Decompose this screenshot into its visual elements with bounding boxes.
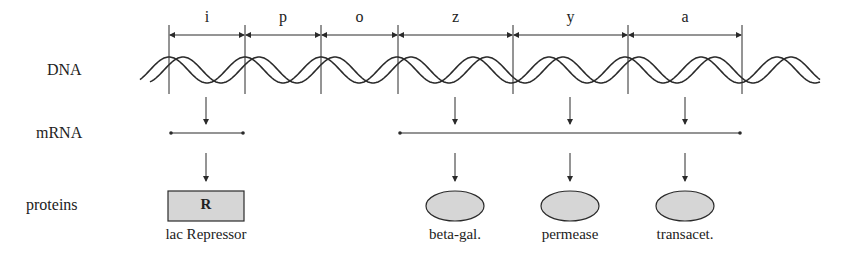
- protein-shapes: [168, 191, 714, 221]
- protein-label-transacet: transacet.: [656, 226, 713, 243]
- row-label-dna: DNA: [47, 61, 82, 79]
- lac-operon-diagram: [0, 0, 850, 258]
- protein-label-permease: permease: [542, 226, 599, 243]
- gene-label-a: a: [681, 8, 688, 26]
- row-label-mrna: mRNA: [36, 124, 82, 142]
- gene-label-i: i: [205, 8, 209, 26]
- dna-double-helix: [140, 57, 820, 83]
- protein-label-beta-gal: beta-gal.: [429, 226, 481, 243]
- row-label-proteins: proteins: [26, 196, 78, 214]
- protein-shape-permease: [541, 191, 599, 221]
- repressor-letter: R: [201, 196, 212, 213]
- protein-label-lac-repressor: lac Repressor: [165, 226, 246, 243]
- gene-label-o: o: [356, 8, 364, 26]
- gene-label-y: y: [567, 8, 575, 26]
- gene-label-p: p: [279, 8, 287, 26]
- transcription-arrows: [206, 97, 685, 124]
- protein-shape-beta-gal: [426, 191, 484, 221]
- translation-arrows: [206, 153, 685, 181]
- gene-label-z: z: [452, 8, 459, 26]
- dna-strand-1: [140, 57, 820, 83]
- protein-shape-transacet: [656, 191, 714, 221]
